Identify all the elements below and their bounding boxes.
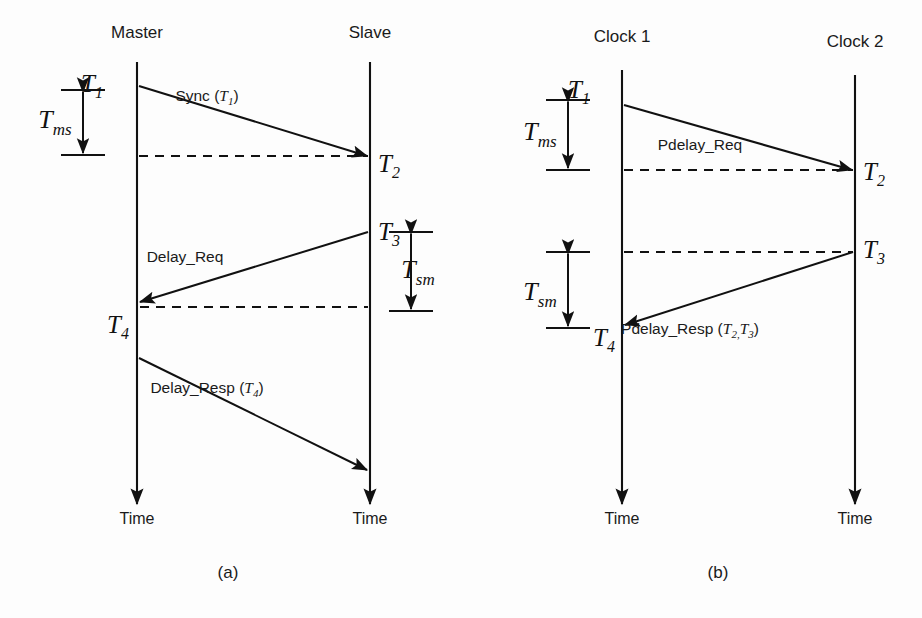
panel-a: MasterTimeSlaveTimeSync (T1)Delay_ReqDel…: [38, 23, 434, 582]
timestamp-label-t4-a: T4: [107, 311, 129, 342]
time-axis-label-slave: Time: [353, 510, 388, 527]
timestamp-label-t2-a: T2: [378, 150, 400, 181]
interval-label-Tsm-b: Tsm: [523, 277, 556, 311]
message-arrow-pdelay-resp: [625, 252, 853, 325]
interval-label-Tms-b: Tms: [523, 117, 557, 151]
message-arrow-delay-resp: [139, 358, 367, 470]
panel-caption-a: (a): [218, 563, 239, 582]
message-label-pdelay-req: Pdelay_Req: [658, 136, 742, 153]
lifeline-header-slave: Slave: [349, 23, 392, 42]
message-arrow-delay-req: [140, 232, 368, 302]
lifeline-header-clock-1: Clock 1: [594, 27, 651, 46]
timestamp-label-t1-b: T1: [568, 76, 590, 107]
timestamp-label-t3-a: T3: [378, 218, 400, 249]
timestamp-label-t4-b: T4: [593, 324, 615, 355]
panel-caption-b: (b): [708, 563, 729, 582]
message-label-delay-resp: Delay_Resp (T4): [150, 379, 263, 399]
time-axis-label-clock-1: Time: [605, 510, 640, 527]
lifeline-header-clock-2: Clock 2: [827, 32, 884, 51]
diagram-layer: MasterTimeSlaveTimeSync (T1)Delay_ReqDel…: [38, 23, 885, 582]
interval-label-Tsm-a: Tsm: [401, 255, 434, 289]
figure-root: MasterTimeSlaveTimeSync (T1)Delay_ReqDel…: [0, 0, 922, 618]
message-arrow-sync: [139, 86, 367, 156]
timestamp-label-t3-b: T3: [863, 236, 885, 267]
panel-b: Clock 1TimeClock 2TimePdelay_ReqPdelay_R…: [523, 27, 885, 582]
message-label-sync: Sync (T1): [175, 87, 238, 107]
time-axis-label-clock-2: Time: [838, 510, 873, 527]
timestamp-label-t1-a: T1: [81, 70, 103, 101]
timestamp-label-t2-b: T2: [863, 158, 885, 189]
message-label-delay-req: Delay_Req: [147, 248, 224, 265]
timing-diagram-svg: MasterTimeSlaveTimeSync (T1)Delay_ReqDel…: [0, 0, 922, 618]
time-axis-label-master: Time: [120, 510, 155, 527]
interval-label-Tms-a: Tms: [38, 105, 72, 139]
message-label-pdelay-resp: Pdelay_Resp (T2,T3): [621, 320, 759, 340]
lifeline-header-master: Master: [111, 23, 163, 42]
